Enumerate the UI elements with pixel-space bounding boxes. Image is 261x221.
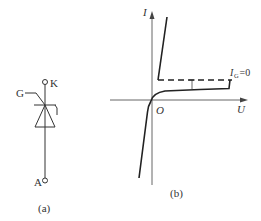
terminal-a-icon	[43, 178, 48, 183]
figure-canvas: K G A (a) I U O I G =0 (b)	[0, 0, 261, 221]
caption-b: (b)	[170, 187, 183, 200]
y-axis-arrow-icon	[150, 11, 155, 19]
caption-a: (a)	[38, 202, 51, 215]
iu-chart	[110, 11, 248, 185]
thyristor-symbol	[25, 80, 57, 184]
origin-label: O	[156, 104, 164, 116]
label-g: G	[16, 87, 24, 99]
x-axis-label: U	[237, 103, 246, 115]
svg-text:G: G	[234, 72, 239, 79]
svg-text:=0: =0	[240, 67, 251, 78]
gate-lead	[25, 93, 45, 105]
y-axis-label: I	[142, 6, 148, 18]
forward-blocking-curve	[151, 80, 230, 101]
curve-annotation: I G =0	[229, 67, 250, 79]
label-k: K	[50, 77, 58, 89]
x-axis-arrow-icon	[240, 98, 248, 103]
label-a: A	[34, 176, 42, 188]
forward-conduction-line	[158, 17, 167, 80]
terminal-k-icon	[43, 80, 48, 85]
reverse-blocking-curve	[139, 101, 151, 178]
